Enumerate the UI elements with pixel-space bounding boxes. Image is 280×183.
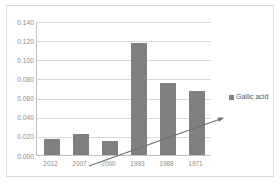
y-axis-tick-label: 0.040 [2, 114, 34, 121]
x-axis-tick-label: 1971 [179, 160, 213, 168]
chart-container: 0.1400.1200.1000.0800.0600.0400.0200.000… [0, 0, 280, 183]
bar [73, 134, 89, 155]
gridline [37, 99, 211, 100]
gridline [37, 79, 211, 80]
legend-swatch-gallic-acid [229, 95, 234, 100]
bar [131, 43, 147, 155]
gridline [37, 60, 211, 61]
bar [44, 139, 60, 155]
y-axis-tick-label: 0.120 [2, 38, 34, 45]
plot-area [36, 22, 210, 156]
gridline [37, 22, 211, 23]
chart-legend: Gallic acid [229, 93, 268, 101]
bar [189, 91, 205, 155]
y-axis-tick-label: 0.080 [2, 76, 34, 83]
gridline [37, 137, 211, 138]
y-axis-tick-label: 0.140 [2, 19, 34, 26]
y-axis-tick-label: 0.020 [2, 133, 34, 140]
gridline [37, 118, 211, 119]
y-axis-tick-label: 0.000 [2, 153, 34, 160]
y-axis-tick-label: 0.100 [2, 57, 34, 64]
y-axis-labels: 0.1400.1200.1000.0800.0600.0400.0200.000 [0, 22, 34, 156]
gridline [37, 41, 211, 42]
bar [102, 141, 118, 155]
legend-label-gallic-acid: Gallic acid [236, 93, 268, 101]
bar [160, 83, 176, 155]
y-axis-tick-label: 0.060 [2, 95, 34, 102]
